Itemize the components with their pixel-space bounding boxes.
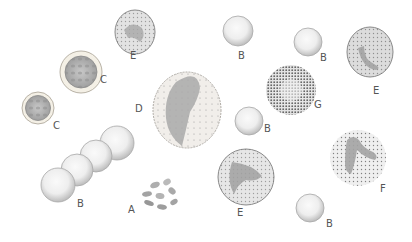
rouleaux-red-blood-cells <box>41 126 134 202</box>
label-b-top-right: B <box>320 53 327 63</box>
eosinophil-cell-e2 <box>347 27 393 77</box>
basophil-cell-g <box>266 65 316 115</box>
eosinophil-cell-e3 <box>218 149 274 205</box>
label-e-top: E <box>130 51 136 61</box>
label-g: G <box>314 100 322 110</box>
label-b-top: B <box>238 51 245 61</box>
label-c-upper: C <box>100 75 107 85</box>
lymphocyte-cell-c2 <box>22 92 54 124</box>
red-blood-cell-b3 <box>235 107 263 135</box>
eosinophil-cell-e1 <box>115 10 155 54</box>
monocyte-cell-d <box>153 72 221 148</box>
label-f: F <box>380 184 386 194</box>
label-e-right: E <box>373 86 379 96</box>
cells-svg <box>0 0 412 242</box>
red-blood-cell-b2 <box>294 28 322 56</box>
label-d: D <box>135 104 143 114</box>
neutrophil-cell-f <box>330 130 386 186</box>
label-b-rouleaux: B <box>77 199 84 209</box>
red-blood-cell-b4 <box>296 194 324 222</box>
lymphocyte-cell-c1 <box>60 51 102 93</box>
label-c-lower: C <box>53 121 60 131</box>
label-b-bottom: B <box>326 219 333 229</box>
blood-cell-illustration: E C C D B B G E B E F B B A <box>0 0 412 242</box>
label-b-middle: B <box>264 124 271 134</box>
label-e-bottom: E <box>237 208 243 218</box>
label-a: A <box>128 205 135 215</box>
red-blood-cell-b1 <box>223 16 253 46</box>
platelets-a <box>142 177 179 210</box>
